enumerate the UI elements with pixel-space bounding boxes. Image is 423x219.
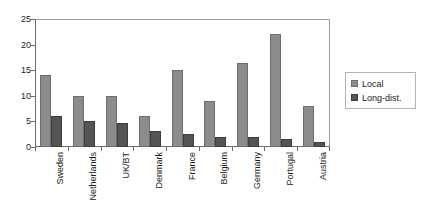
y-tick-label: 20 xyxy=(0,41,31,50)
x-axis-label-sweden: Sweden xyxy=(55,152,65,185)
bar-denmark-long-dist- xyxy=(150,131,161,147)
x-axis-label-portugal: Portugal xyxy=(285,152,295,186)
bar-austria-local xyxy=(303,106,314,147)
bar-france-long-dist- xyxy=(183,134,194,147)
legend-item-local: Local xyxy=(351,77,411,90)
x-tick-mark xyxy=(101,147,102,151)
x-axis-label-netherlands: Netherlands xyxy=(88,152,98,201)
legend-item-long-dist-: Long-dist. xyxy=(351,91,411,104)
bar-portugal-long-dist- xyxy=(281,139,292,147)
bar-chart: 0510152025 SwedenNetherlandsUK/BTDenmark… xyxy=(0,0,423,219)
bar-uk-bt-local xyxy=(106,96,117,147)
x-tick-mark xyxy=(166,147,167,151)
bar-germany-local xyxy=(237,63,248,147)
bar-uk-bt-long-dist- xyxy=(117,123,128,147)
x-axis-label-france: France xyxy=(187,152,197,180)
bar-france-local xyxy=(172,70,183,147)
x-axis-ticks xyxy=(35,147,330,151)
y-axis: 0510152025 xyxy=(0,19,31,147)
bar-netherlands-local xyxy=(73,96,84,147)
legend-label: Long-dist. xyxy=(362,93,402,103)
x-tick-mark xyxy=(232,147,233,151)
x-axis-label-denmark: Denmark xyxy=(154,152,164,189)
x-axis-label-germany: Germany xyxy=(252,152,262,189)
legend-swatch-icon xyxy=(351,94,358,101)
bar-sweden-local xyxy=(40,75,51,147)
y-tick-label: 10 xyxy=(0,92,31,101)
bar-netherlands-long-dist- xyxy=(84,121,95,147)
bar-portugal-local xyxy=(270,34,281,147)
x-tick-mark xyxy=(297,147,298,151)
x-tick-mark xyxy=(199,147,200,151)
bar-denmark-local xyxy=(139,116,150,147)
legend-swatch-icon xyxy=(351,80,358,87)
y-tick-label: 5 xyxy=(0,117,31,126)
x-tick-mark xyxy=(68,147,69,151)
x-axis-label-uk-bt: UK/BT xyxy=(121,152,131,179)
x-axis-label-austria: Austria xyxy=(318,152,328,180)
bar-belgium-local xyxy=(204,101,215,147)
x-axis-label-belgium: Belgium xyxy=(219,152,229,185)
bar-belgium-long-dist- xyxy=(215,137,226,147)
legend-label: Local xyxy=(362,79,384,89)
bars-layer xyxy=(35,19,330,147)
x-tick-mark xyxy=(35,147,36,151)
bar-sweden-long-dist- xyxy=(51,116,62,147)
chart-legend: LocalLong-dist. xyxy=(345,72,416,109)
x-tick-mark xyxy=(264,147,265,151)
x-tick-mark xyxy=(133,147,134,151)
bar-germany-long-dist- xyxy=(248,137,259,147)
y-tick-label: 15 xyxy=(0,66,31,75)
x-tick-mark xyxy=(329,147,330,151)
y-tick-label: 0 xyxy=(0,143,31,152)
x-axis-labels: SwedenNetherlandsUK/BTDenmarkFranceBelgi… xyxy=(35,152,330,216)
y-tick-label: 25 xyxy=(0,15,31,24)
